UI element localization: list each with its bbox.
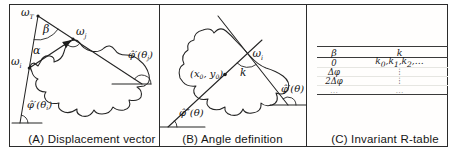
omega-i-label-b: ωi: [253, 48, 264, 59]
r-table-row: Δφ ⋮: [317, 67, 448, 76]
k-angle-label: k: [240, 67, 246, 78]
center-point-x0-y0: [223, 73, 227, 77]
r-table-row: … …: [317, 85, 448, 94]
phi-prime-label: φ̂′(θ): [281, 84, 304, 94]
caption-panel-c: (C) Invariant R-table: [314, 133, 456, 145]
r-table-cell-vdots: ⋮: [351, 69, 448, 75]
phi-double-prime-label: φ̂″(θ): [179, 108, 204, 118]
r-table-cell-ellipsis: …: [351, 86, 448, 95]
omega-t-label: ωT: [21, 7, 34, 18]
phi-theta-j-label: φ̂′(θj): [128, 50, 153, 60]
r-table-cell-ellipsis: …: [317, 86, 351, 95]
invariant-r-table: β k 0 k0,k1,k2,… Δφ ⋮ 2Δφ ⋮ … …: [317, 46, 448, 95]
r-table-header-beta: β: [317, 47, 351, 58]
caption-panel-b: (B) Angle definition: [159, 133, 306, 145]
r-table-cell-vdots: ⋮: [351, 78, 448, 84]
r-table-row: 2Δφ ⋮: [317, 76, 448, 85]
omega-i-label: ωi: [11, 56, 22, 67]
tangent-line-omega-i: [218, 16, 288, 105]
r-table-cell-2delta-phi: 2Δφ: [317, 76, 351, 86]
beta-angle-label: β: [43, 24, 49, 35]
center-point-label: (x0, y0): [190, 69, 223, 79]
line-omegaT-omegaJ-tangent: [38, 16, 142, 84]
theta-i-inclination-arc: [21, 115, 28, 123]
omega-j-point: [71, 37, 74, 40]
figure-displacement-vector-diagram: ωT β α ωi ωj φ̂′(θi) φ̂′(θj) (x0, y0) ωi…: [0, 0, 460, 158]
phi-theta-i-label: φ̂′(θi): [27, 100, 52, 110]
caption-panel-a: (A) Displacement vector: [18, 133, 166, 145]
phi-double-prime-inclination-arc: [175, 121, 177, 127]
alpha-angle-label: α: [33, 45, 40, 56]
omega-j-label: ωj: [76, 26, 87, 37]
omega-i-point: [28, 66, 31, 69]
r-table-cell-beta-0: 0: [317, 58, 351, 68]
omega-t-point: [36, 14, 39, 17]
r-table-row: 0 k0,k1,k2,…: [317, 58, 448, 67]
